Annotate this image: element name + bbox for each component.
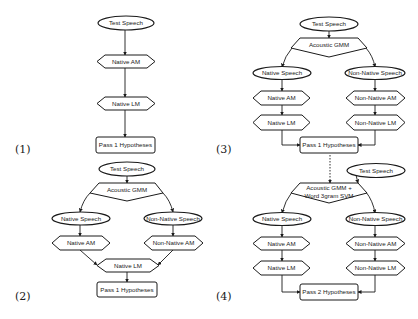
edge [80, 193, 90, 212]
svg-text:Native AM: Native AM [67, 239, 95, 246]
panel-label: (1) [15, 143, 31, 156]
svg-text:Pass 1 Hypotheses: Pass 1 Hypotheses [99, 141, 152, 148]
svg-text:Native Speech: Native Speech [262, 215, 303, 222]
test-speech-node: Test Speech [347, 164, 405, 178]
svg-text:Test Speech: Test Speech [110, 165, 145, 172]
native-am-node: Native AM [52, 236, 110, 250]
hypotheses-node: Pass 1 Hypotheses [300, 137, 358, 153]
svg-text:Native LM: Native LM [114, 262, 142, 269]
svg-text:Pass 2 Hypotheses: Pass 2 Hypotheses [302, 288, 355, 295]
svg-text:Non-Native LM: Non-Native LM [355, 264, 396, 271]
edge [163, 193, 173, 212]
svg-text:Pass 1 Hypotheses: Pass 1 Hypotheses [100, 286, 153, 293]
nonnative-speech-node: Non-Native Speech [346, 213, 405, 226]
native-lm-node: Native LM [253, 115, 310, 130]
test-speech-node: Test Speech [98, 16, 154, 30]
svg-text:Acoustic GMM +: Acoustic GMM + [306, 184, 352, 191]
flowchart-figure: (1) Test Speech Native AM Native LM Pass… [0, 0, 418, 319]
edge [282, 130, 300, 145]
svg-text:Non-Native Speech: Non-Native Speech [146, 215, 200, 222]
nonnative-speech-node: Non-Native Speech [345, 67, 405, 80]
svg-text:Non-Native AM: Non-Native AM [355, 94, 397, 101]
native-speech-node: Native Speech [52, 212, 110, 225]
svg-text:Non-Native AM: Non-Native AM [153, 239, 195, 246]
edge [158, 250, 173, 265]
panel-4: (4) Test Speech Acoustic GMM + Word 3gra… [216, 155, 405, 303]
svg-text:Native AM: Native AM [267, 240, 295, 247]
svg-text:Acoustic GMM: Acoustic GMM [107, 186, 147, 193]
panel-label: (3) [216, 143, 232, 156]
edge [282, 48, 292, 67]
nonnative-lm-node: Non-Native LM [346, 261, 405, 275]
svg-text:Native Speech: Native Speech [262, 69, 303, 76]
edge [358, 275, 375, 292]
svg-text:Native AM: Native AM [267, 94, 295, 101]
panel-label: (2) [15, 290, 31, 303]
edge [366, 48, 375, 67]
native-lm-node: Native LM [97, 97, 155, 110]
test-speech-node: Test Speech [99, 162, 155, 176]
svg-text:Pass 1 Hypotheses: Pass 1 Hypotheses [302, 141, 355, 148]
hypotheses-node: Pass 1 Hypotheses [97, 282, 157, 297]
nonnative-lm-node: Non-Native LM [346, 115, 405, 130]
svg-text:Non-Native Speech: Non-Native Speech [349, 215, 403, 222]
nonnative-speech-node: Non-Native Speech [144, 212, 202, 225]
classifier-node: Acoustic GMM + Word 3gram SVM [291, 183, 367, 203]
svg-text:Native AM: Native AM [112, 58, 140, 65]
nonnative-am-node: Non-Native AM [346, 91, 405, 105]
svg-text:Non-Native Speech: Non-Native Speech [348, 69, 402, 76]
hypotheses-node: Pass 1 Hypotheses [96, 137, 155, 153]
native-am-node: Native AM [253, 91, 310, 105]
svg-text:Test Speech: Test Speech [312, 20, 347, 27]
native-lm-node: Native LM [253, 261, 310, 275]
edge [282, 192, 292, 213]
native-speech-node: Native Speech [253, 67, 311, 80]
svg-text:Native Speech: Native Speech [61, 215, 102, 222]
edge [282, 275, 300, 292]
nonnative-am-node: Non-Native AM [144, 236, 203, 250]
hypotheses-node: Pass 2 Hypotheses [300, 284, 358, 300]
svg-text:Test Speech: Test Speech [109, 19, 144, 26]
panel-label: (4) [216, 290, 232, 303]
svg-text:Non-Native LM: Non-Native LM [355, 119, 396, 126]
native-am-node: Native AM [97, 55, 155, 68]
svg-text:Test Speech: Test Speech [359, 167, 394, 174]
classifier-node: Acoustic GMM [291, 38, 367, 57]
native-am-node: Native AM [253, 237, 310, 250]
svg-text:Acoustic GMM: Acoustic GMM [309, 41, 349, 48]
native-speech-node: Native Speech [253, 213, 311, 226]
svg-text:Native LM: Native LM [268, 119, 296, 126]
edge [80, 250, 97, 265]
svg-text:Word 3gram SVM: Word 3gram SVM [304, 192, 353, 199]
classifier-node: Acoustic GMM [90, 183, 163, 201]
test-speech-node: Test Speech [300, 17, 358, 31]
svg-text:Non-Native AM: Non-Native AM [355, 240, 397, 247]
panel-3: (3) Test Speech Acoustic GMM Native Spee… [216, 17, 405, 156]
svg-text:Native LM: Native LM [112, 100, 140, 107]
nonnative-am-node: Non-Native AM [346, 237, 405, 250]
edge [366, 192, 375, 213]
native-lm-node: Native LM [97, 259, 159, 272]
panel-1: (1) Test Speech Native AM Native LM Pass… [15, 16, 155, 156]
edge [358, 130, 375, 145]
svg-text:Native LM: Native LM [268, 264, 296, 271]
panel-2: (2) Test Speech Acoustic GMM Native Spee… [15, 162, 203, 303]
